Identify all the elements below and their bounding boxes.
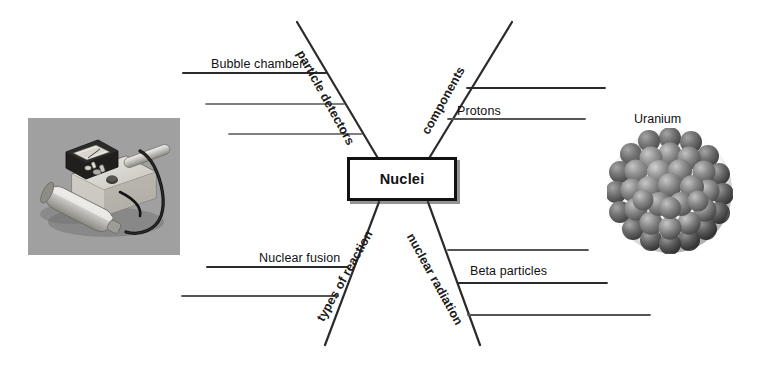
- mind-map-canvas: Nuclei particle detectors components typ…: [0, 0, 757, 368]
- sub-label-beta-particles: Beta particles: [470, 264, 547, 278]
- caption-uranium: Uranium: [634, 112, 681, 126]
- branch-line-particle-detectors: [297, 22, 379, 160]
- sub-label-nuclear-fusion: Nuclear fusion: [259, 251, 340, 265]
- center-concept-label: Nuclei: [380, 171, 425, 187]
- geiger-counter-photo: [28, 118, 180, 255]
- uranium-nucleus-illustration: [607, 128, 733, 254]
- center-concept-box[interactable]: Nuclei: [347, 157, 457, 201]
- sub-label-bubble-chamber: Bubble chamber: [211, 57, 303, 71]
- sub-label-protons: Protons: [457, 104, 501, 118]
